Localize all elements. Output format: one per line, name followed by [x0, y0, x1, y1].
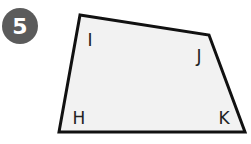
problem-number: 5 — [12, 14, 27, 39]
problem-number-badge: 5 — [2, 8, 38, 44]
diagram-canvas: 5 I J K H — [0, 0, 251, 144]
vertex-label-h: H — [73, 108, 86, 128]
vertex-label-i: I — [87, 30, 92, 50]
vertex-label-j: J — [195, 46, 201, 66]
vertex-label-k: K — [218, 108, 230, 128]
